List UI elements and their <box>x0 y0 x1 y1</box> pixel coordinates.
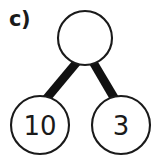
number-bond-figure: c) 10 3 <box>0 0 161 156</box>
edge-total-right-icon <box>90 60 119 101</box>
node-total-circle[interactable] <box>58 11 112 65</box>
node-part-left-value: 10 <box>23 111 56 141</box>
edge-total-left-icon <box>43 60 81 101</box>
node-part-right-value: 3 <box>113 111 130 141</box>
number-bond-svg: 10 3 <box>0 0 161 156</box>
